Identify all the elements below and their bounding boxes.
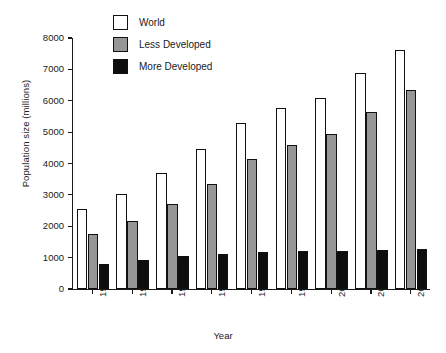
y-tick	[68, 132, 73, 133]
bar-world	[116, 194, 127, 289]
x-tick	[410, 289, 411, 294]
y-tick	[68, 194, 73, 195]
y-tick-label: 1000	[43, 253, 64, 263]
y-tick-label: 8000	[43, 33, 64, 43]
bar-more	[337, 251, 348, 289]
y-axis-line	[72, 38, 73, 289]
bar-less	[88, 234, 99, 289]
y-tick-label: 5000	[43, 127, 64, 137]
x-tick	[211, 289, 212, 294]
bar-group	[315, 38, 348, 289]
bar-less	[247, 159, 258, 289]
x-tick	[251, 289, 252, 294]
y-tick	[68, 163, 73, 164]
legend-item: Less Developed	[113, 33, 212, 55]
bar-less	[366, 112, 377, 289]
bar-world	[236, 123, 247, 289]
y-tick-label: 6000	[43, 96, 64, 106]
population-bar-chart: Population size (millions) 0100020003000…	[0, 0, 446, 353]
x-tick	[331, 289, 332, 294]
bar-world	[315, 98, 326, 289]
legend-swatch-world	[113, 15, 128, 30]
x-tick	[132, 289, 133, 294]
bar-world	[355, 73, 366, 289]
y-tick-label: 4000	[43, 159, 64, 169]
y-tick	[68, 100, 73, 101]
y-tick-label: 0	[59, 284, 64, 294]
y-tick	[68, 257, 73, 258]
y-tick-label: 3000	[43, 190, 64, 200]
x-tick	[171, 289, 172, 294]
bar-less	[127, 221, 138, 289]
y-tick	[68, 69, 73, 70]
y-tick	[68, 288, 73, 289]
bar-more	[417, 249, 428, 289]
chart-legend: WorldLess DevelopedMore Developed	[113, 11, 212, 77]
bar-world	[156, 173, 167, 289]
bar-world	[196, 149, 207, 289]
y-tick-label: 2000	[43, 222, 64, 232]
legend-label: More Developed	[139, 61, 212, 72]
bar-group	[77, 38, 110, 289]
bar-more	[258, 252, 269, 289]
bar-more	[138, 260, 149, 289]
x-axis-title: Year	[0, 330, 446, 341]
bar-less	[207, 184, 218, 289]
x-tick	[92, 289, 93, 294]
bar-less	[167, 204, 178, 289]
legend-label: Less Developed	[139, 39, 211, 50]
legend-swatch-more	[113, 59, 128, 74]
bar-group	[355, 38, 388, 289]
bar-group	[236, 38, 269, 289]
legend-label: World	[139, 17, 165, 28]
bar-less	[326, 134, 337, 289]
bar-more	[99, 264, 110, 289]
legend-swatch-less	[113, 37, 128, 52]
x-tick	[370, 289, 371, 294]
y-tick	[68, 37, 73, 38]
bar-group	[395, 38, 428, 289]
y-tick	[68, 226, 73, 227]
bar-more	[218, 254, 229, 289]
legend-item: More Developed	[113, 55, 212, 77]
bar-less	[406, 90, 417, 289]
bar-group	[276, 38, 309, 289]
bar-more	[298, 251, 309, 289]
y-tick-label: 7000	[43, 65, 64, 75]
bar-less	[287, 145, 298, 289]
bar-world	[77, 209, 88, 289]
bar-world	[276, 108, 287, 289]
legend-item: World	[113, 11, 212, 33]
y-axis-title: Population size (millions)	[20, 49, 31, 219]
bar-more	[178, 256, 189, 289]
bar-world	[395, 50, 406, 289]
bar-more	[377, 250, 388, 289]
x-tick	[291, 289, 292, 294]
